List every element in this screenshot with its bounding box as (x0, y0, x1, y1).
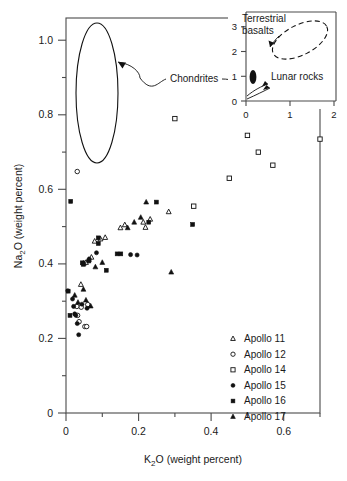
legend-marker-apollo-12 (231, 352, 235, 356)
inset-axes: 0 1 2 3 0 1 2 Terrestrial basalts Lunar … (228, 12, 337, 120)
data-point-apollo-16-9 (115, 252, 119, 256)
svg-text:Na2O (weight percent): Na2O (weight percent) (12, 164, 27, 268)
data-point-apollo-16-2 (68, 313, 72, 317)
data-point-apollo-15-6 (77, 333, 81, 337)
legend-item-apollo-16[interactable]: Apollo 16 (231, 395, 286, 406)
legend-marker-apollo-11 (231, 336, 236, 340)
data-point-apollo-14-0 (173, 116, 177, 120)
data-point-apollo-16-8 (104, 268, 108, 272)
inset-x-ticklabel-1: 1 (287, 109, 292, 120)
data-point-apollo-17-10 (144, 199, 149, 204)
series-apollo-14 (173, 116, 323, 208)
legend-label-apollo-16: Apollo 16 (244, 395, 286, 406)
x-ticklabel-0.6: 0.6 (276, 425, 291, 437)
legend-item-apollo-12[interactable]: Apollo 12 (231, 349, 286, 360)
legend-marker-apollo-15 (231, 383, 235, 387)
data-point-apollo-11-7 (103, 235, 108, 240)
data-point-apollo-14-4 (256, 150, 260, 154)
data-point-apollo-11-11 (143, 225, 148, 230)
data-point-apollo-16-12 (147, 220, 151, 224)
data-point-apollo-17-9 (138, 215, 143, 220)
data-point-apollo-17-0 (72, 293, 77, 298)
data-point-apollo-15-12 (129, 253, 133, 257)
y-ticklabel-0: 0 (47, 407, 53, 419)
legend-label-apollo-14: Apollo 14 (244, 364, 286, 375)
chondrites-label: Chondrites (170, 73, 218, 84)
data-point-apollo-17-3 (84, 297, 89, 302)
data-point-apollo-16-1 (66, 289, 70, 293)
data-point-apollo-16-13 (191, 223, 195, 227)
y-axis-label-pre: Na (12, 255, 24, 269)
data-point-apollo-14-5 (271, 163, 275, 167)
y-ticklabel-0.2: 0.2 (38, 332, 53, 344)
y-axis-label-post: O (weight percent) (12, 164, 24, 250)
data-point-apollo-15-4 (74, 313, 78, 317)
data-point-apollo-15-2 (72, 304, 76, 308)
x-axis-label-post: O (weight percent) (156, 453, 242, 465)
y-ticklabel-0.4: 0.4 (38, 257, 53, 269)
legend-label-apollo-15: Apollo 15 (244, 380, 286, 391)
inset-x-ticklabel-0: 0 (243, 109, 248, 120)
legend-marker-apollo-16 (231, 399, 235, 403)
legend-marker-apollo-14 (231, 368, 235, 372)
data-point-apollo-15-5 (75, 322, 79, 326)
x-ticklabel-0: 0 (63, 425, 69, 437)
lunar-rocks-label: Lunar rocks (271, 71, 323, 82)
series-apollo-11 (78, 209, 171, 286)
data-point-apollo-17-8 (132, 220, 137, 225)
legend: Apollo 11Apollo 12Apollo 14Apollo 15Apol… (231, 333, 286, 422)
data-point-apollo-16-6 (96, 236, 100, 240)
legend-label-apollo-11: Apollo 11 (244, 333, 285, 344)
data-point-apollo-11-13 (166, 209, 171, 214)
x-axis-label-pre: K (144, 453, 151, 465)
legend-label-apollo-12: Apollo 12 (244, 349, 286, 360)
y-ticklabel-1.0: 1.0 (38, 34, 53, 46)
data-point-layer (66, 116, 322, 336)
data-point-apollo-16-0 (69, 199, 73, 203)
x-ticklabel-0.2: 0.2 (131, 425, 146, 437)
inset-y-ticklabel-0: 0 (232, 96, 237, 107)
inset-x-ticklabel-2: 2 (331, 109, 336, 120)
y-ticklabel-0.6: 0.6 (38, 183, 53, 195)
chondrites-ellipse (76, 23, 118, 163)
data-point-apollo-12-6 (84, 324, 89, 329)
data-point-apollo-14-3 (245, 133, 249, 137)
terrestrial-basalts-label-line2: basalts (242, 25, 274, 36)
data-point-apollo-14-6 (318, 137, 322, 141)
data-point-apollo-14-1 (192, 204, 196, 208)
legend-marker-apollo-17 (231, 414, 236, 418)
legend-item-apollo-15[interactable]: Apollo 15 (231, 380, 286, 391)
data-point-apollo-11-8 (118, 225, 123, 230)
inset-y-ticklabel-2: 2 (232, 46, 237, 57)
data-point-apollo-16-10 (119, 252, 123, 256)
data-point-apollo-17-11 (169, 269, 174, 274)
y-axis-label: Na2O (weight percent) (12, 164, 27, 268)
y-axis: 0 0.2 0.4 0.6 0.8 1.0 Na2O (weight perce… (12, 34, 66, 419)
annotation-chondrites: Chondrites (76, 23, 243, 163)
data-point-apollo-17-6 (100, 260, 105, 265)
data-point-apollo-12-0 (75, 169, 80, 174)
terrestrial-basalts-label-line1: Terrestrial (242, 13, 286, 24)
data-point-apollo-11-10 (141, 220, 146, 225)
data-point-apollo-17-5 (93, 264, 98, 269)
data-point-apollo-11-9 (122, 222, 127, 227)
y-ticklabel-0.8: 0.8 (38, 108, 53, 120)
legend-label-apollo-17: Apollo 17 (244, 411, 286, 422)
data-point-apollo-15-13 (135, 253, 139, 257)
plot-canvas: 0 0.2 0.4 0.6 0.8 1.0 Na2O (weight perce… (0, 0, 347, 481)
data-point-apollo-17-1 (76, 300, 81, 305)
data-point-apollo-15-1 (70, 297, 74, 301)
legend-item-apollo-11[interactable]: Apollo 11 (231, 333, 286, 344)
data-point-apollo-17-2 (81, 287, 86, 292)
legend-item-apollo-14[interactable]: Apollo 14 (231, 364, 286, 375)
data-point-apollo-15-11 (94, 251, 98, 255)
data-point-apollo-16-4 (81, 262, 85, 266)
chondrites-arrowhead-left (118, 62, 126, 69)
inset-y-ticklabel-1: 1 (232, 71, 237, 82)
data-point-apollo-16-11 (154, 200, 158, 204)
figure-scatter-na2o-vs-k2o: 0 0.2 0.4 0.6 0.8 1.0 Na2O (weight perce… (0, 0, 347, 481)
y-tick-marks (58, 40, 66, 413)
inset-y-ticklabel-3: 3 (232, 21, 237, 32)
x-ticklabel-0.4: 0.4 (204, 425, 219, 437)
chondrites-leader-left (140, 78, 166, 86)
